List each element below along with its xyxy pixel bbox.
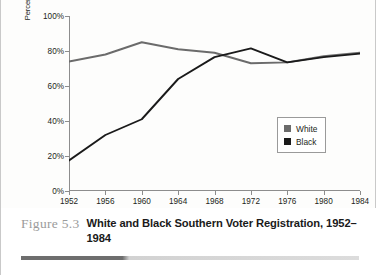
caption-divider-rule — [21, 256, 359, 260]
y-tick-label: 80% — [48, 47, 64, 56]
chart-plot-lines — [69, 16, 360, 191]
x-tick-mark — [215, 191, 216, 195]
y-axis-title: Percentage of voting-age population regi… — [23, 0, 44, 36]
x-tick-mark — [178, 191, 179, 195]
legend-label-black: Black — [296, 137, 316, 147]
x-tick-mark — [251, 191, 252, 195]
x-tick-label: 1952 — [60, 197, 78, 206]
x-tick-label: 1972 — [242, 197, 260, 206]
legend-swatch-white — [284, 125, 291, 132]
y-tick-label: 60% — [48, 82, 64, 91]
x-tick-label: 1960 — [133, 197, 151, 206]
x-tick-mark — [69, 191, 70, 195]
caption-body-text-truncated — [21, 264, 363, 273]
y-tick-label: 0% — [52, 187, 64, 196]
figure-number: Figure 5.3 — [21, 216, 80, 231]
caption-row: Figure 5.3 White and Black Southern Vote… — [21, 216, 363, 245]
legend-item-white: White — [284, 122, 317, 135]
y-tick-label: 20% — [48, 152, 64, 161]
legend-label-white: White — [296, 124, 317, 134]
x-tick-mark — [287, 191, 288, 195]
legend-item-black: Black — [284, 135, 317, 148]
x-tick-label: 1968 — [205, 197, 223, 206]
x-tick-label: 1964 — [169, 197, 187, 206]
chart-legend: White Black — [277, 117, 326, 153]
y-axis-title-line-1: Percentage of voting-age population — [23, 0, 34, 36]
y-tick-label: 100% — [43, 12, 64, 21]
figure-caption-text: White and Black Southern Voter Registrat… — [87, 216, 364, 245]
plot-frame: Percentage of voting-age population regi… — [69, 16, 360, 191]
x-tick-mark — [142, 191, 143, 195]
x-tick-label: 1956 — [96, 197, 114, 206]
y-tick-label: 40% — [48, 117, 64, 126]
chart-area: Percentage of voting-age population regi… — [1, 0, 376, 207]
series-line-white — [69, 42, 360, 63]
x-tick-label: 1976 — [278, 197, 296, 206]
x-tick-label: 1984 — [351, 197, 369, 206]
x-tick-mark — [324, 191, 325, 195]
figure-container: Percentage of voting-age population regi… — [0, 0, 376, 275]
x-tick-label: 1980 — [315, 197, 333, 206]
x-tick-mark — [105, 191, 106, 195]
x-tick-mark — [360, 191, 361, 195]
legend-swatch-black — [284, 138, 291, 145]
figure-caption-block: Figure 5.3 White and Black Southern Vote… — [1, 208, 376, 275]
